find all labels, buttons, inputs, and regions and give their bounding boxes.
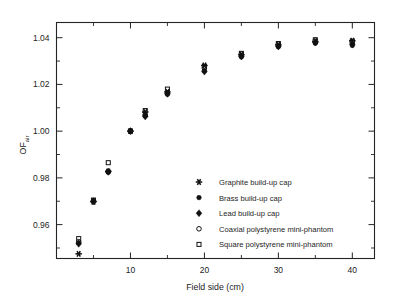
- y-tick-label: 1.04: [33, 33, 50, 43]
- y-tick-label: 0.96: [33, 220, 50, 230]
- y-axis-title: OF: [18, 142, 28, 155]
- data-point: [128, 129, 133, 134]
- legend-marker-open-circle-icon: [197, 227, 202, 232]
- data-point: [350, 43, 355, 48]
- y-tick-label: 1.02: [33, 79, 50, 89]
- data-point: [313, 41, 318, 46]
- data-point: [91, 199, 96, 204]
- legend-marker-filled-circle-icon: [197, 195, 202, 200]
- legend-label: Brass build-up cap: [219, 194, 282, 203]
- y-axis-title-subscript: air: [24, 136, 30, 143]
- data-point: [76, 241, 81, 246]
- x-tick-label: 30: [274, 265, 284, 275]
- figure-background: [0, 0, 396, 301]
- legend-label: Graphite build-up cap: [219, 178, 292, 187]
- data-point: [106, 170, 111, 175]
- x-tick-label: 10: [126, 265, 136, 275]
- legend-label: Coaxial polystyrene mini-phantom: [219, 225, 333, 234]
- data-point: [202, 69, 207, 74]
- data-point: [276, 45, 281, 50]
- data-point: [165, 92, 170, 97]
- scatter-plot-svg: 0.960.981.001.021.04 10203040 Graphite b…: [0, 0, 396, 301]
- y-tick-label: 1.00: [33, 126, 50, 136]
- x-axis-title: Field side (cm): [186, 282, 244, 292]
- y-tick-label: 0.98: [33, 173, 50, 183]
- x-tick-label: 20: [200, 265, 210, 275]
- data-point: [143, 113, 148, 118]
- chart-figure: 0.960.981.001.021.04 10203040 Graphite b…: [0, 0, 396, 301]
- data-point: [106, 161, 110, 165]
- legend-label: Square polystyrene mini-phantom: [219, 240, 333, 249]
- x-tick-label: 40: [348, 265, 358, 275]
- legend-label: Lead build-up cap: [219, 209, 279, 218]
- data-point: [239, 55, 244, 60]
- legend-marker-open-square-icon: [197, 242, 201, 246]
